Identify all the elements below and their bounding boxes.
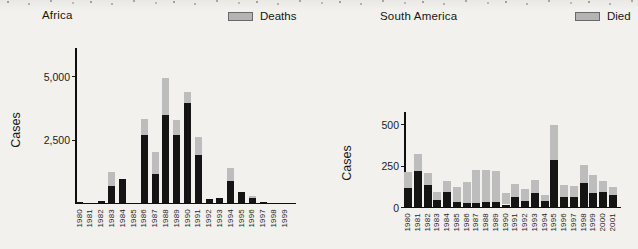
- deaths-segment: [453, 187, 461, 202]
- x-tick-label-1998: 1998: [270, 209, 278, 228]
- x-tick-label-1992: 1992: [205, 209, 213, 228]
- bar-africa-1989: [173, 120, 180, 203]
- x-tick-label-1996: 1996: [560, 213, 568, 232]
- y-axis-label-africa: Cases: [9, 112, 23, 147]
- bar-south-america-1996: [560, 185, 568, 207]
- bar-africa-1984: [119, 179, 126, 203]
- deaths-segment: [463, 182, 471, 203]
- cases-segment: [195, 155, 202, 203]
- cases-segment: [404, 188, 412, 207]
- cases-segment: [609, 195, 617, 207]
- x-tick-label-1995: 1995: [550, 213, 558, 232]
- deaths-segment: [492, 171, 500, 202]
- x-tick-label-1983: 1983: [433, 213, 441, 232]
- bar-africa-1990: [184, 92, 191, 203]
- deaths-segment: [609, 187, 617, 195]
- cases-segment: [550, 160, 558, 207]
- deaths-segment: [560, 185, 568, 197]
- y-tick-label: 2,500: [30, 135, 70, 146]
- x-tick-label-1986: 1986: [463, 213, 471, 232]
- x-tick-label-1988: 1988: [482, 213, 490, 232]
- bar-africa-1982: [98, 201, 105, 204]
- bar-south-america-2001: [609, 187, 617, 208]
- x-tick-label-1994: 1994: [541, 213, 549, 232]
- y-tick-mark: [72, 140, 76, 141]
- cases-segment: [463, 203, 471, 208]
- cases-segment: [76, 202, 83, 203]
- bar-south-america-1995: [550, 125, 558, 208]
- deaths-segment: [414, 154, 422, 171]
- x-tick-label-1984: 1984: [443, 213, 451, 232]
- y-tick-mark: [401, 166, 405, 167]
- x-tick-label-1984: 1984: [119, 209, 127, 228]
- bar-africa-1997: [260, 202, 267, 204]
- x-tick-label-1997: 1997: [570, 213, 578, 232]
- x-tick-label-1989: 1989: [173, 209, 181, 228]
- deaths-segment: [141, 119, 148, 135]
- cases-segment: [238, 192, 245, 204]
- bar-south-america-1980: [404, 172, 412, 208]
- bar-south-america-1998: [580, 165, 588, 208]
- bar-south-america-1991: [511, 184, 519, 208]
- cases-segment: [511, 197, 519, 208]
- x-tick-label-1980: 1980: [404, 213, 412, 232]
- x-tick-label-1986: 1986: [140, 209, 148, 228]
- x-tick-label-1995: 1995: [238, 209, 246, 228]
- x-tick-label-1985: 1985: [130, 209, 138, 228]
- cases-segment: [443, 192, 451, 208]
- deaths-segment: [108, 172, 115, 186]
- figure-canvas: Africa Deaths Cases 2,5005,0001980198119…: [0, 0, 638, 249]
- x-tick-label-1993: 1993: [216, 209, 224, 228]
- deaths-segment: [404, 172, 412, 189]
- cases-segment: [173, 135, 180, 204]
- deaths-legend-label: Deaths: [260, 10, 296, 22]
- chart-title-africa: Africa: [42, 9, 73, 21]
- deaths-legend-swatch-icon: [228, 12, 253, 21]
- cases-segment: [152, 174, 159, 203]
- cases-segment: [541, 201, 549, 208]
- x-tick-label-1982: 1982: [97, 209, 105, 228]
- deaths-segment: [472, 170, 480, 203]
- bar-south-america-1993: [531, 180, 539, 207]
- deaths-segment: [162, 78, 169, 116]
- y-tick-label: 5,000: [30, 72, 70, 83]
- cases-segment: [249, 198, 256, 203]
- x-tick-label-1987: 1987: [472, 213, 480, 232]
- deaths-segment: [249, 196, 256, 199]
- deaths-segment: [433, 192, 441, 200]
- cases-segment: [260, 202, 267, 204]
- legend-africa: Deaths: [228, 10, 296, 22]
- cases-segment: [580, 183, 588, 208]
- x-tick-label-1999: 1999: [589, 213, 597, 232]
- cases-segment: [482, 202, 490, 207]
- deaths-segment: [184, 92, 191, 103]
- x-tick-label-1981: 1981: [86, 209, 94, 228]
- x-tick-label-1990: 1990: [502, 213, 510, 232]
- x-tick-label-1993: 1993: [531, 213, 539, 232]
- cases-segment: [414, 171, 422, 208]
- deaths-segment: [227, 168, 234, 181]
- bar-africa-1986: [141, 119, 148, 204]
- deaths-segment: [502, 193, 510, 204]
- x-tick-label-1990: 1990: [184, 209, 192, 228]
- deaths-segment: [521, 189, 529, 201]
- cases-segment: [560, 197, 568, 207]
- deaths-segment: [541, 195, 549, 201]
- y-axis-label-south-america: Cases: [340, 145, 354, 180]
- deaths-segment: [570, 186, 578, 197]
- scan-noise: [0, 0, 638, 6]
- x-tick-label-1991: 1991: [194, 209, 202, 228]
- bar-south-america-1997: [570, 186, 578, 208]
- bar-africa-1995: [238, 192, 245, 204]
- cases-segment: [108, 186, 115, 204]
- x-tick-label-1989: 1989: [492, 213, 500, 232]
- deaths-segment: [424, 173, 432, 185]
- x-tick-label-1994: 1994: [227, 209, 235, 228]
- x-tick-label-1982: 1982: [424, 213, 432, 232]
- y-tick-label: 0: [359, 203, 399, 214]
- y-tick-label: 500: [359, 120, 399, 131]
- x-tick-label-1981: 1981: [414, 213, 422, 232]
- deaths-segment: [195, 137, 202, 155]
- x-tick-label-1997: 1997: [259, 209, 267, 228]
- deaths-segment: [511, 184, 519, 197]
